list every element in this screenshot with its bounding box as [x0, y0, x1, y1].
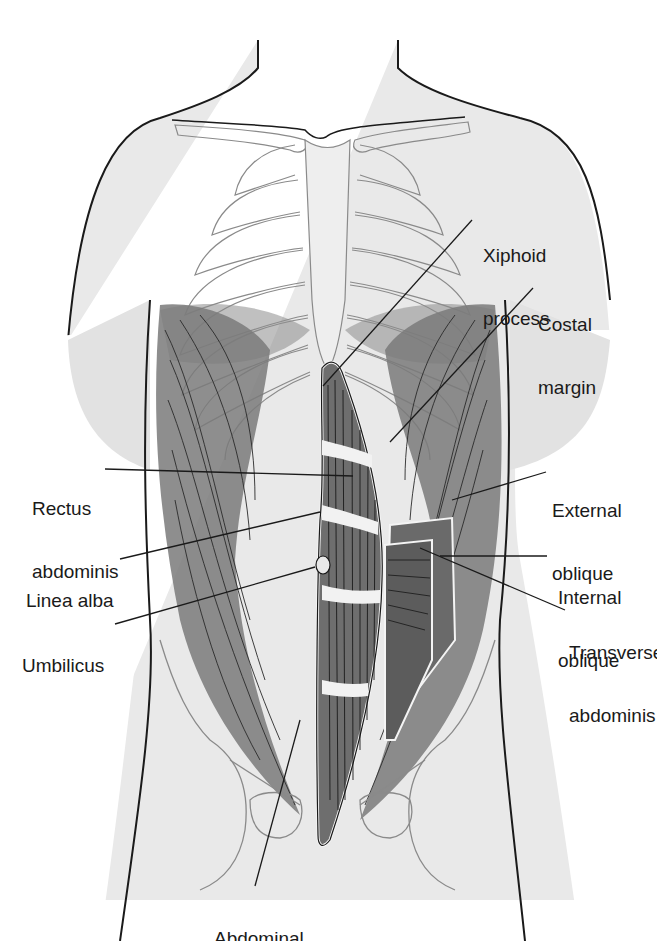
label-costal-margin: Costal margin: [538, 272, 596, 419]
label-transverse-line1: Transverse: [569, 642, 657, 663]
label-aponeurosis-line1: Abdominal: [214, 928, 318, 941]
label-transverse-line2: abdominis: [569, 705, 657, 726]
label-xiphoid-line1: Xiphoid: [483, 245, 550, 266]
label-abdominal-aponeurosis: Abdominal aponeurosis: [214, 886, 318, 941]
label-costal-line2: margin: [538, 377, 596, 398]
label-transverse-abdominis: Transverse abdominis: [569, 600, 657, 747]
label-umbilicus-line1: Umbilicus: [22, 655, 104, 676]
label-costal-line1: Costal: [538, 314, 596, 335]
label-rectus-line1: Rectus: [32, 498, 119, 519]
label-linea-line1: Linea alba: [26, 590, 114, 611]
label-external-line1: External: [552, 500, 622, 521]
label-umbilicus: Umbilicus: [22, 613, 104, 697]
umbilicus: [316, 556, 330, 574]
